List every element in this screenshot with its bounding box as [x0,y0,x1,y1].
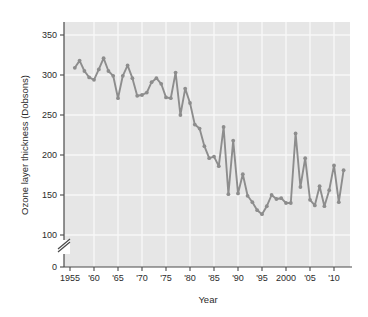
data-point [150,80,154,84]
data-point [265,204,269,208]
ozone-line-chart: 0100150200250300350 1955'60'65'70'75'80'… [0,0,368,317]
y-axis-break-icon [58,239,70,254]
data-point [337,200,341,204]
data-point [159,82,163,86]
y-tick-label: 150 [42,190,57,200]
data-point [102,56,106,60]
data-point [279,196,283,200]
data-point [97,68,101,72]
data-point [73,66,77,70]
x-tick-label: 1955 [60,273,80,283]
data-point [255,208,259,212]
data-point [313,204,317,208]
data-point [284,201,288,205]
data-point [164,96,168,100]
data-point [169,96,173,100]
data-point [207,156,211,160]
x-tick-label: '70 [136,273,148,283]
data-point [87,76,91,80]
data-point [121,74,125,78]
x-tick-label: '85 [208,273,220,283]
y-tick-label: 250 [42,110,57,120]
data-point [217,164,221,168]
data-point [332,164,336,168]
data-point [294,132,298,136]
ozone-chart-figure: 0100150200250300350 1955'60'65'70'75'80'… [0,0,368,317]
x-axis-title: Year [198,294,217,305]
data-point [131,76,135,80]
y-tick-label: 0 [52,262,57,272]
data-point [299,185,303,189]
data-point [78,59,82,63]
x-tick-label: '60 [88,273,100,283]
x-tick-label: 2000 [276,273,296,283]
data-point [116,96,120,100]
data-point [174,71,178,75]
data-point [327,188,331,192]
data-point [260,212,264,216]
data-point [236,192,240,196]
data-point [241,172,245,176]
data-point [179,113,183,117]
data-point [135,94,139,98]
y-tick-label: 100 [42,230,57,240]
data-point [92,78,96,82]
y-tick-label: 200 [42,150,57,160]
data-point [111,74,115,78]
x-tick-label: '95 [256,273,268,283]
data-point [145,91,149,95]
data-point [246,194,250,198]
data-point [342,168,346,172]
plot-area-background [64,22,350,267]
data-point [308,198,312,202]
data-point [318,184,322,188]
data-point [251,200,255,204]
y-tick-label: 300 [42,70,57,80]
data-point [83,69,87,73]
x-tick-label: '10 [328,273,340,283]
x-tick-label: '05 [304,273,316,283]
data-point [275,197,279,201]
data-point [193,123,197,127]
x-tick-label: '90 [232,273,244,283]
x-tick-label: '65 [112,273,124,283]
x-tick-label: '75 [160,273,172,283]
data-point [323,204,327,208]
data-point [198,127,202,131]
data-point [289,201,293,205]
data-point [231,139,235,143]
data-point [188,101,192,105]
data-point [222,125,226,129]
data-point [183,87,187,91]
data-point [270,193,274,197]
data-point [155,76,159,80]
data-point [227,192,231,196]
data-point [303,156,307,160]
data-point [107,69,111,73]
y-tick-label: 350 [42,30,57,40]
x-tick-label: '80 [184,273,196,283]
data-point [140,93,144,97]
y-axis-title: Ozone layer thickness (Dobsons) [19,75,30,215]
data-point [126,64,130,68]
data-point [212,155,216,159]
data-point [203,144,207,148]
